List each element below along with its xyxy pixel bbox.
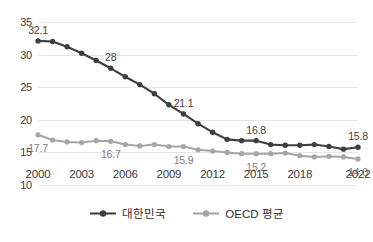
x-axis-tick-label: 2009 xyxy=(157,168,182,180)
data-point-marker xyxy=(123,74,128,79)
x-axis-tick-label: 2003 xyxy=(69,168,94,180)
data-point-marker xyxy=(312,142,317,147)
data-point-marker xyxy=(108,139,113,144)
data-point-marker xyxy=(253,138,258,143)
legend-item-oecd[interactable]: OECD 평균 xyxy=(192,205,283,221)
data-point-marker xyxy=(355,156,360,161)
data-point-marker xyxy=(224,150,229,155)
gridline xyxy=(38,185,358,186)
y-axis-tick-label: 35 xyxy=(20,16,32,28)
chart-legend: 대한민국OECD 평균 xyxy=(0,205,373,221)
legend-label: 대한민국 xyxy=(122,205,166,221)
data-point-marker xyxy=(283,143,288,148)
series-line xyxy=(38,135,358,159)
data-point-marker xyxy=(312,154,317,159)
data-point-marker xyxy=(35,132,40,137)
data-point-marker xyxy=(50,39,55,44)
data-point-marker xyxy=(355,144,360,149)
y-axis-tick-label: 20 xyxy=(20,114,32,126)
x-axis-tick-label: 2018 xyxy=(287,168,312,180)
series-layer xyxy=(38,22,358,185)
data-point-marker xyxy=(326,144,331,149)
series-oecd xyxy=(35,132,360,161)
legend-item-korea[interactable]: 대한민국 xyxy=(89,205,166,221)
korea-value-label: 28 xyxy=(105,51,116,63)
data-point-marker xyxy=(239,151,244,156)
data-point-marker xyxy=(326,154,331,159)
korea-value-label: 16.8 xyxy=(246,124,266,136)
data-point-marker xyxy=(268,142,273,147)
x-axis-tick-label: 2000 xyxy=(26,168,51,180)
data-point-marker xyxy=(152,91,157,96)
y-axis-tick-label: 25 xyxy=(20,81,32,93)
korea-value-label: 15.8 xyxy=(348,130,368,142)
series-line xyxy=(38,41,358,149)
data-point-marker xyxy=(79,140,84,145)
data-point-marker xyxy=(254,151,259,156)
data-point-marker xyxy=(181,144,186,149)
x-axis-tick-label: 2006 xyxy=(113,168,138,180)
korea-value-label: 21.1 xyxy=(174,97,194,109)
data-point-marker xyxy=(166,144,171,149)
data-point-marker xyxy=(195,121,200,126)
data-point-marker xyxy=(79,51,84,56)
series-korea xyxy=(35,38,360,152)
data-point-marker xyxy=(224,137,229,142)
data-point-marker xyxy=(152,142,157,147)
data-point-marker xyxy=(123,142,128,147)
data-point-marker xyxy=(166,102,171,107)
data-point-marker xyxy=(297,143,302,148)
data-point-marker xyxy=(64,44,69,49)
line-chart: 32.12821.116.815.817.716.715.915.214.0 1… xyxy=(0,0,373,242)
data-point-marker xyxy=(297,153,302,158)
data-point-marker xyxy=(94,138,99,143)
legend-swatch xyxy=(192,208,220,219)
data-point-marker xyxy=(64,139,69,144)
data-point-marker xyxy=(341,146,346,151)
data-point-marker xyxy=(210,129,215,134)
y-axis-tick-label: 15 xyxy=(20,146,32,158)
y-axis-tick-label: 10 xyxy=(20,179,32,191)
data-point-marker xyxy=(93,58,98,63)
plot-area: 32.12821.116.815.817.716.715.915.214.0 xyxy=(38,22,358,185)
data-point-marker xyxy=(239,138,244,143)
data-point-marker xyxy=(181,111,186,116)
data-point-marker xyxy=(283,150,288,155)
y-axis-tick-label: 30 xyxy=(20,49,32,61)
data-point-marker xyxy=(268,151,273,156)
data-point-marker xyxy=(137,82,142,87)
data-point-marker xyxy=(35,38,40,43)
data-point-marker xyxy=(210,149,215,154)
x-axis-tick-label: 2012 xyxy=(200,168,225,180)
data-point-marker xyxy=(195,147,200,152)
data-point-marker xyxy=(137,143,142,148)
x-axis-tick-label: 2022 xyxy=(346,168,371,180)
x-axis-tick-label: 2015 xyxy=(244,168,269,180)
data-point-marker xyxy=(50,137,55,142)
data-point-marker xyxy=(341,154,346,159)
oecd-value-label: 15.9 xyxy=(174,154,194,166)
oecd-value-label: 16.7 xyxy=(101,148,121,160)
legend-swatch xyxy=(89,208,117,219)
data-point-marker xyxy=(108,66,113,71)
legend-label: OECD 평균 xyxy=(225,205,283,221)
